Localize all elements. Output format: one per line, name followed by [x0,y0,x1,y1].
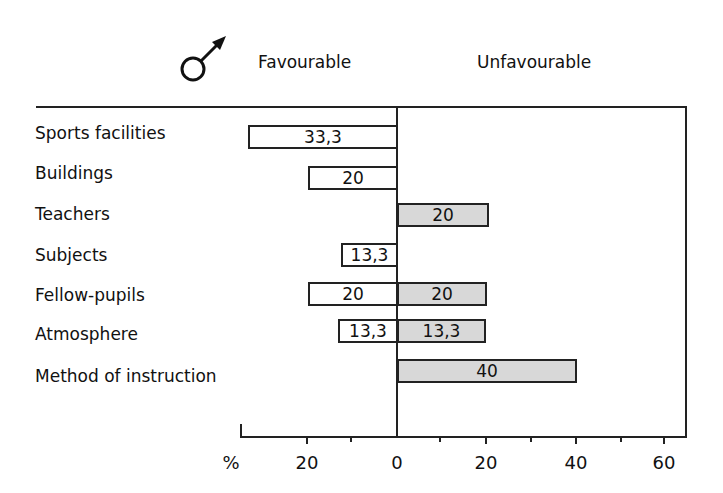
x-tick-minor [350,437,352,442]
category-label: Atmosphere [35,324,138,344]
favourable-header: Favourable [258,52,351,72]
bar-favourable-atmosphere: 13,3 [338,319,398,343]
zero-axis-line [396,106,398,438]
category-label: Teachers [35,204,110,224]
bar-unfavourable-fellow-pupils: 20 [397,282,487,306]
x-tick [306,437,308,444]
unfavourable-header: Unfavourable [477,52,591,72]
category-label: Buildings [35,163,113,183]
category-label: Sports facilities [35,123,166,143]
x-tick-label: 40 [565,452,588,473]
x-axis-unit-label: % [222,452,239,473]
x-tick-label: 60 [653,452,676,473]
category-label: Method of instruction [35,366,217,386]
male-symbol-icon [176,34,232,84]
x-tick [663,437,665,444]
x-tick-label: 20 [475,452,498,473]
x-tick-minor [620,437,622,442]
bar-favourable-sports-facilities: 33,3 [248,125,398,149]
x-tick [485,437,487,444]
x-tick [575,437,577,444]
category-label: Fellow-pupils [35,285,145,305]
top-divider [36,106,687,108]
bar-unfavourable-atmosphere: 13,3 [397,319,486,343]
bar-favourable-subjects: 13,3 [341,243,398,267]
bar-unfavourable-teachers: 20 [397,203,489,227]
x-tick-minor [439,437,441,442]
x-tick-minor [530,437,532,442]
category-label: Subjects [35,245,107,265]
right-border [685,106,687,438]
bar-favourable-buildings: 20 [308,166,398,190]
x-tick-label: 20 [296,452,319,473]
x-tick-label: 0 [391,452,402,473]
x-axis-left-cap [240,424,242,437]
bar-unfavourable-method-of-instruction: 40 [397,359,577,383]
bar-favourable-fellow-pupils: 20 [308,282,398,306]
